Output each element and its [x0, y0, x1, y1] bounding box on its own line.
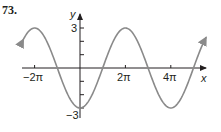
- x-tick-label-2pi: 2π: [117, 71, 131, 83]
- y-axis-label: y: [69, 8, 77, 20]
- x-tick-label-neg2pi: −2π: [23, 71, 44, 83]
- x-tick-label-4pi: 4π: [163, 71, 177, 83]
- x-axis-label: x: [200, 72, 207, 84]
- y-tick-label-neg3: −3: [66, 109, 79, 121]
- graph: y x 3 −3 −2π 2π 4π: [0, 0, 221, 132]
- y-tick-label-3: 3: [71, 22, 77, 34]
